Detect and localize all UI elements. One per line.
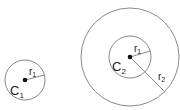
radius-r1-label: r1 <box>29 66 36 78</box>
center-dot-c2 <box>128 55 133 60</box>
center-dot-c1 <box>23 78 28 83</box>
center-c2-label: C2 <box>112 59 126 76</box>
radius-r1-label-c2: r1 <box>134 43 141 55</box>
radius-r2-label: r2 <box>158 71 165 83</box>
circles-diagram: r1 C1 r1 C2 r2 <box>0 0 180 110</box>
circle-c1: r1 C1 <box>5 60 45 100</box>
circle-c2: r1 C2 r2 <box>81 8 179 106</box>
center-c1-label: C1 <box>10 83 24 100</box>
